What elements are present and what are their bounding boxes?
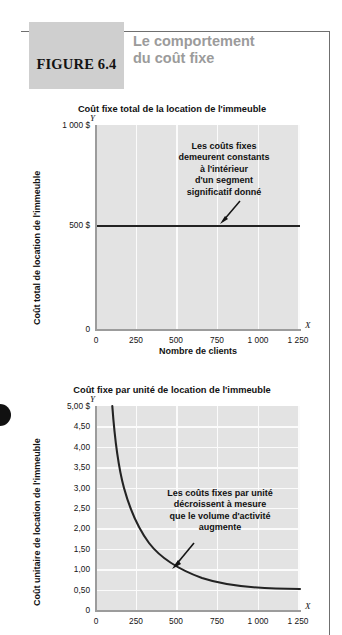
- chart1-xtick-250: 250: [116, 335, 156, 345]
- page-bullet-marker: [0, 404, 11, 426]
- chart-unit-fixed-cost: Coût fixe par unité de location de l'imm…: [22, 385, 330, 635]
- chart1-x-axis-label: Nombre de clients: [96, 346, 300, 356]
- chart1-ytick-0: 0: [30, 324, 90, 334]
- chart1-plot-area: Les coûts fixes demeurent constants à l'…: [96, 125, 300, 329]
- chart1-annotation-arrow-icon: [96, 125, 300, 329]
- chart1-y-axis: [95, 125, 97, 330]
- chart2-xtick-1000: 1 000: [238, 616, 278, 626]
- chart1-xtick-500: 500: [156, 335, 196, 345]
- figure-number-badge: FIGURE 6.4: [29, 22, 124, 89]
- chart2-plot-area: Les coûts fixes par unité décroissent à …: [96, 406, 300, 610]
- chart2-annotation-arrow-icon: [96, 406, 300, 610]
- chart1-y-axis-letter: Y: [90, 113, 95, 123]
- chart1-x-axis-letter: X: [305, 320, 311, 330]
- chart1-xtick-1000: 1 000: [238, 335, 278, 345]
- figure-page: FIGURE 6.4 Le comportement du coût fixe …: [0, 0, 342, 635]
- chart1-xtick-750: 750: [197, 335, 237, 345]
- chart2-xtick-500: 500: [156, 616, 196, 626]
- chart2-ytick-500: 5,00 $: [30, 401, 90, 411]
- chart2-title: Coût fixe par unité de location de l'imm…: [18, 385, 326, 395]
- chart1-title: Coût fixe total de la location de l'imme…: [18, 104, 326, 114]
- chart2-ytick-450: 4,50: [30, 421, 90, 431]
- chart-total-fixed-cost: Coût fixe total de la location de l'imme…: [22, 104, 330, 354]
- figure-title-line-1: Le comportement: [133, 33, 323, 50]
- chart1-xtick-1250: 1 250: [278, 335, 318, 345]
- chart2-x-axis: [95, 610, 301, 612]
- chart2-xtick-0: 0: [76, 616, 116, 626]
- chart2-xtick-250: 250: [116, 616, 156, 626]
- figure-title: Le comportement du coût fixe: [133, 33, 323, 67]
- chart2-xtick-1250: 1 250: [278, 616, 318, 626]
- figure-title-line-2: du coût fixe: [133, 50, 323, 67]
- chart1-x-axis: [95, 329, 301, 331]
- chart2-x-axis-letter: X: [305, 601, 311, 611]
- chart2-y-axis: [95, 406, 97, 611]
- chart1-y-axis-label: Coût total de location de l'immeuble: [32, 171, 42, 325]
- chart1-xtick-0: 0: [76, 335, 116, 345]
- figure-number-label: FIGURE 6.4: [29, 56, 124, 73]
- chart2-ytick-0: 0: [30, 605, 90, 615]
- chart2-y-axis-letter: Y: [90, 394, 95, 404]
- chart2-xtick-750: 750: [197, 616, 237, 626]
- chart1-ytick-1000: 1 000 $: [30, 120, 90, 130]
- chart2-y-axis-label: Coût unitaire de location de l'immeuble: [32, 438, 42, 606]
